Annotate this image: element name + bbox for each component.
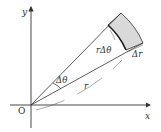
upper-ray: [31, 13, 121, 105]
lower-ray: [31, 43, 143, 105]
label-delta-theta: Δθ: [55, 75, 67, 85]
label-r: r: [84, 81, 89, 91]
label-delta-r: Δr: [131, 49, 143, 59]
label-origin: O: [18, 106, 25, 116]
shaded-area-element: [108, 13, 143, 50]
radius-dimension-arc: [36, 60, 122, 110]
polar-area-element-diagram: y x O Δθ rΔθ Δr r: [0, 0, 161, 132]
label-x: x: [145, 111, 150, 121]
label-r-delta-theta: rΔθ: [96, 45, 111, 55]
label-y: y: [21, 7, 28, 17]
